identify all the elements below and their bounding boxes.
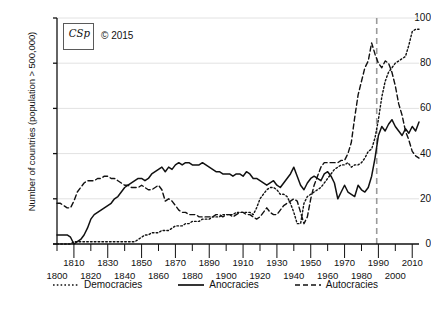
- legend-swatch-solid: [178, 281, 204, 289]
- legend-item-democracies[interactable]: Democracies: [53, 279, 142, 290]
- svg-text:CSp: CSp: [69, 28, 91, 39]
- legend-label: Democracies: [84, 279, 142, 290]
- legend-swatch-dashed: [295, 281, 321, 289]
- legend-label: Autocracies: [326, 279, 378, 290]
- series-line-anocracies: [57, 120, 419, 244]
- csp-logo-glyph: CSp: [64, 24, 93, 49]
- chart-figure: Number of countries (population > 500,00…: [0, 0, 431, 313]
- series-line-democracies: [57, 29, 419, 244]
- copyright-text: © 2015: [101, 30, 133, 41]
- legend-swatch-dotted: [53, 281, 79, 289]
- chart-legend: DemocraciesAnocraciesAutocracies: [0, 279, 431, 290]
- series-line-autocracies: [57, 43, 419, 224]
- csp-logo: CSp: [63, 23, 94, 50]
- legend-label: Anocracies: [209, 279, 258, 290]
- legend-item-autocracies[interactable]: Autocracies: [295, 279, 378, 290]
- legend-item-anocracies[interactable]: Anocracies: [178, 279, 258, 290]
